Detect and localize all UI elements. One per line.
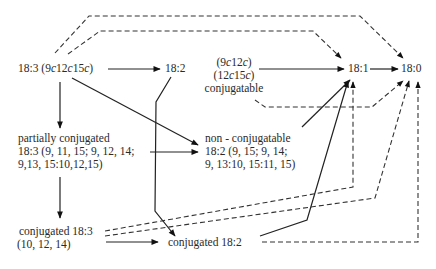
partial-line-3: 9,13, 15:10,12,15)	[18, 158, 135, 171]
conj183-line-2: (10, 12, 14)	[17, 238, 93, 251]
conjugatable-line-2: (12c15c)	[203, 69, 265, 82]
edge-183-to-180-dashed	[55, 16, 403, 58]
edge-nonconj-to-181	[302, 80, 350, 127]
conjugatable-line-1: (9c12c)	[203, 56, 265, 69]
node-conjugated-18-3: conjugated 18:3 (10, 12, 14)	[19, 225, 93, 251]
conjugatable-line-3: conjugatable	[203, 82, 265, 95]
node-conjugated-18-2: conjugated 18:2	[168, 236, 242, 249]
edge-conjugatable-to-180-dashed	[255, 81, 403, 107]
conj183-line-1: conjugated 18:3	[19, 225, 93, 238]
node-18-0: 18:0	[401, 62, 421, 75]
biohydrogenation-diagram: 18:3 (9c12c15c) 18:2 (9c12c) (12c15c) co…	[0, 0, 436, 269]
partial-line-2: 18:3 (9, 11, 15; 9, 12, 14;	[18, 145, 135, 158]
nonconj-line-3: 9, 13:10, 15:11, 15)	[205, 158, 295, 171]
edge-183-to-181-dashed	[68, 31, 341, 58]
partial-line-1: partially conjugated	[18, 132, 135, 145]
nonconj-line-2: 18:2 (9, 15; 9, 14;	[205, 145, 295, 158]
node-18-2: 18:2	[165, 62, 185, 75]
node-18-1: 18:1	[348, 62, 368, 75]
node-non-conjugatable: non - conjugatable 18:2 (9, 15; 9, 14; 9…	[205, 132, 295, 171]
node-partially-conjugated: partially conjugated 18:3 (9, 11, 15; 9,…	[18, 132, 135, 171]
node-conjugatable: (9c12c) (12c15c) conjugatable	[203, 56, 265, 95]
node-18-3-cis: 18:3 (9c12c15c)	[18, 62, 93, 75]
edge-182-to-conj182	[155, 77, 175, 236]
nonconj-line-1: non - conjugatable	[205, 132, 295, 145]
